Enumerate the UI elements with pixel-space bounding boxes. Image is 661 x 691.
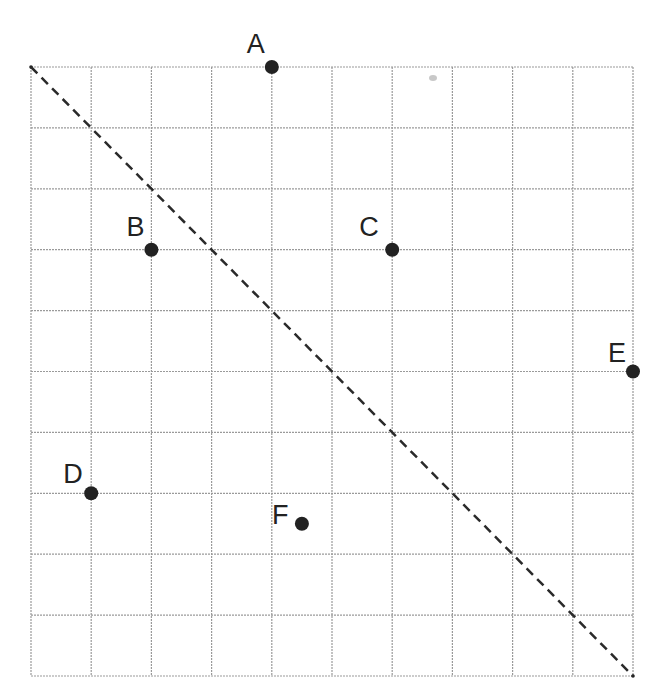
point-label: B [126,212,144,242]
grid-diagram: ABCDEF [0,0,661,691]
point-label: F [272,500,289,530]
point-label: A [247,29,265,59]
point-marker [84,486,98,500]
point-marker [265,60,279,74]
point-marker [144,243,158,257]
point-label: E [608,338,626,368]
point-marker [385,243,399,257]
point-marker [626,365,640,379]
smudge-mark [429,75,437,81]
point-marker [295,517,309,531]
point-label: C [359,212,379,242]
point-label: D [63,459,82,489]
background [0,0,661,691]
